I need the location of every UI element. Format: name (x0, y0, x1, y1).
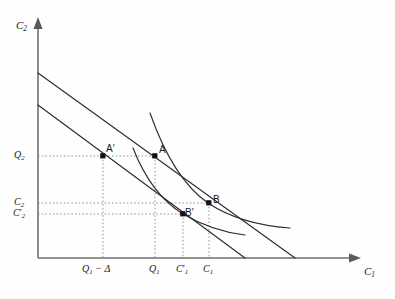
x-axis-label: C1 (364, 266, 375, 277)
y-tick-label-Q2: Q2 (14, 150, 25, 160)
indifference-curves-group (133, 113, 290, 235)
x-tick-label-Q1-minus-delta: Q1 − Δ (82, 264, 110, 274)
budget-lines-group (38, 73, 295, 258)
y-axis-label: C2 (16, 20, 27, 31)
point-label-B: B (213, 195, 220, 205)
y-axis-arrow-icon (34, 17, 43, 29)
upper-indifference-curve (150, 113, 290, 228)
axes-group (34, 17, 362, 263)
point-label-B-prime: B′ (185, 208, 194, 218)
lower-indifference-curve (133, 148, 245, 235)
plot-canvas (0, 0, 395, 299)
x-tick-label-C1: C1 (203, 264, 213, 274)
point-marker-B (206, 200, 211, 205)
point-marker-A (152, 153, 157, 158)
point-label-A-prime: A′ (106, 144, 115, 154)
x-tick-label-C1-prime: C′1 (176, 264, 188, 274)
y-tick-label-C2: C2 (14, 197, 24, 207)
inner-budget-line (38, 105, 245, 258)
outer-budget-line (38, 73, 295, 258)
x-axis-arrow-icon (349, 254, 361, 263)
y-tick-label-C2-prime: C′2 (13, 208, 25, 218)
x-tick-label-Q1: Q1 (149, 264, 160, 274)
indifference-curve-figure: C2 C1 Q2 C2 C′2 Q1 − Δ Q1 C′1 C1 A′ A B′… (0, 0, 395, 299)
point-marker-A-prime (100, 153, 105, 158)
guide-lines-group (38, 156, 209, 258)
point-label-A: A (159, 145, 166, 155)
